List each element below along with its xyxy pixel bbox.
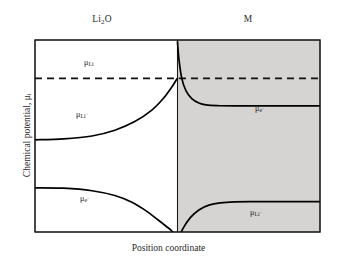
curve-label-mu-e-minus-right-text: μe−: [255, 104, 264, 113]
curve-label-mu-li-text: μLi: [84, 58, 94, 67]
plot-area: [0, 0, 337, 265]
curve-label-mu-li-plus-left: μLi+: [76, 110, 88, 119]
curve-label-mu-li-plus-right-text: μLi+: [250, 208, 262, 217]
y-axis-label-text: Chemical potential, μi: [22, 93, 32, 177]
curve-label-mu-li-plus-right: μLi+: [250, 208, 262, 217]
curve-label-mu-li-plus-left-text: μLi+: [76, 110, 88, 119]
curve-mu-li-plus-left: [35, 78, 178, 139]
curve-label-mu-e-minus-left: μe−: [80, 194, 89, 203]
chemical-potential-figure: Li2O M μLi μLi+ μe−: [0, 0, 337, 265]
curve-label-mu-e-minus-right: μe−: [255, 104, 264, 113]
curve-label-mu-e-minus-left-text: μe−: [80, 194, 89, 203]
x-axis-label: Position coordinate: [0, 243, 337, 253]
curve-label-mu-li: μLi: [84, 58, 94, 67]
curve-mu-e-minus-left: [35, 188, 176, 238]
x-axis-label-text: Position coordinate: [132, 243, 206, 253]
y-axis-label: Chemical potential, μi: [22, 55, 33, 215]
shaded-region-m: [178, 40, 321, 232]
